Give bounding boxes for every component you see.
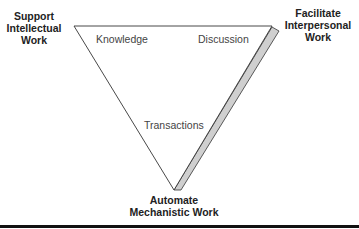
label-line: Interpersonal xyxy=(278,19,358,31)
label-line: Work xyxy=(278,31,358,43)
label-line: Automate xyxy=(124,194,224,206)
vertex-label-support-intellectual-work: Support Intellectual Work xyxy=(4,10,64,46)
label-line: Work xyxy=(4,34,64,46)
label-discussion: Discussion xyxy=(198,33,249,45)
vertex-label-automate-mechanistic-work: Automate Mechanistic Work xyxy=(124,194,224,218)
label-line: Intellectual xyxy=(4,22,64,34)
bottom-rule-divider xyxy=(0,225,359,228)
label-line: Support xyxy=(4,10,64,22)
vertex-label-facilitate-interpersonal-work: Facilitate Interpersonal Work xyxy=(278,7,358,43)
triangle-face xyxy=(74,26,272,190)
label-line: Mechanistic Work xyxy=(124,206,224,218)
label-knowledge: Knowledge xyxy=(96,33,148,45)
label-line: Facilitate xyxy=(278,7,358,19)
label-transactions: Transactions xyxy=(144,119,204,131)
triangle-diagram: Support Intellectual Work Facilitate Int… xyxy=(0,0,359,229)
